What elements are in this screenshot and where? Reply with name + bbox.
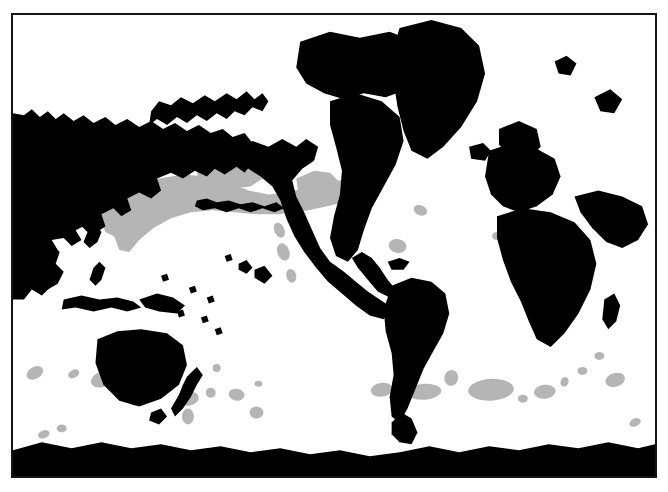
world-map-canvas [13, 15, 655, 476]
map-frame [11, 13, 657, 478]
range-patch-south-pacific-open-1 [250, 407, 264, 419]
range-patch-southern-ocean-pacific-1 [57, 424, 67, 432]
figure-root [0, 0, 668, 492]
range-patch-south-pacific-open-3 [254, 381, 262, 387]
range-patch-south-africa-offshore [577, 367, 587, 375]
range-patch-kerguelen-plateau [594, 352, 604, 360]
range-patch-south-atlantic-small-1 [518, 395, 528, 403]
range-patch-campbell-plateau [206, 388, 216, 398]
range-patch-coral-sea-offshore [213, 364, 221, 372]
range-patch-sub-antarctic-nz [182, 409, 194, 425]
